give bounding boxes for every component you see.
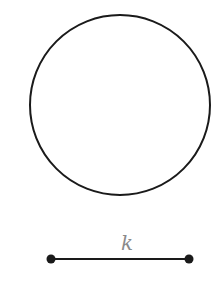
segment-endpoint-right	[185, 255, 194, 264]
diagram-canvas: k	[0, 0, 221, 295]
segment-endpoint-left	[47, 255, 56, 264]
segment-label: k	[121, 231, 133, 255]
circle	[30, 15, 210, 195]
